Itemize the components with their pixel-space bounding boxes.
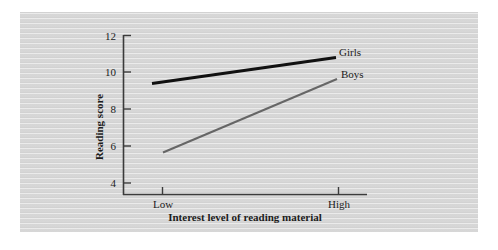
series-line-girls <box>152 58 336 84</box>
x-tick-label-high: High <box>319 199 359 210</box>
series-line-boys <box>163 79 337 153</box>
chart-figure: 12 10 8 6 4 Low High Reading score Inter… <box>0 0 498 250</box>
y-tick-label-10: 10 <box>100 67 116 78</box>
y-axis-title-wrapper: Reading score <box>94 80 108 160</box>
series-label-boys: Boys <box>341 69 364 80</box>
x-tick-label-low: Low <box>143 199 183 210</box>
y-tick-label-4: 4 <box>100 178 116 189</box>
x-axis-title: Interest level of reading material <box>123 212 367 223</box>
y-tick-label-12: 12 <box>100 31 116 42</box>
y-axis-title: Reading score <box>94 94 105 160</box>
series-label-girls: Girls <box>339 47 361 58</box>
